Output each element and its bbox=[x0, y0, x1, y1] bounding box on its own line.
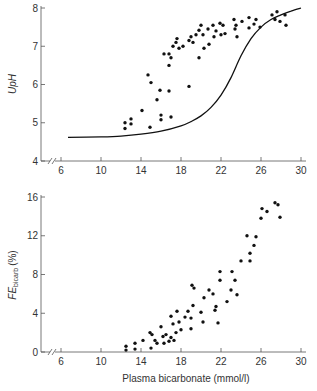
data-point bbox=[167, 52, 170, 55]
data-point bbox=[141, 339, 144, 342]
data-point bbox=[172, 339, 175, 342]
x-tick-label: 14 bbox=[135, 165, 147, 176]
data-point bbox=[278, 216, 281, 219]
data-point bbox=[283, 13, 286, 16]
data-point bbox=[177, 320, 180, 323]
data-point bbox=[155, 98, 158, 101]
data-point bbox=[254, 18, 257, 21]
data-point bbox=[191, 304, 194, 307]
data-point bbox=[225, 300, 228, 303]
data-point bbox=[194, 33, 197, 36]
data-point bbox=[229, 288, 232, 291]
data-point bbox=[150, 333, 153, 336]
data-point bbox=[167, 89, 170, 92]
data-point bbox=[248, 252, 251, 255]
data-point bbox=[276, 203, 279, 206]
data-point bbox=[162, 52, 165, 55]
theoretical-curve bbox=[68, 8, 301, 137]
data-point bbox=[153, 339, 156, 342]
x-tick-label: 22 bbox=[215, 356, 227, 367]
data-point bbox=[254, 235, 257, 238]
data-point bbox=[235, 293, 238, 296]
data-point bbox=[221, 24, 224, 27]
data-point bbox=[258, 25, 261, 28]
data-point bbox=[155, 342, 158, 345]
data-point bbox=[175, 310, 178, 313]
data-point bbox=[202, 47, 205, 50]
data-point bbox=[164, 333, 167, 336]
data-point bbox=[149, 346, 152, 349]
data-point bbox=[240, 20, 243, 23]
data-point bbox=[183, 315, 186, 318]
data-point bbox=[207, 43, 210, 46]
data-point bbox=[167, 64, 170, 67]
data-point bbox=[230, 270, 233, 273]
data-point bbox=[284, 24, 287, 27]
top-chart-panel: 456786101418222630 UpH bbox=[7, 3, 307, 177]
data-point bbox=[171, 322, 174, 325]
data-point bbox=[211, 292, 214, 295]
y-tick-label: 12 bbox=[27, 230, 39, 241]
data-point bbox=[273, 18, 276, 21]
data-point bbox=[211, 24, 214, 27]
data-point bbox=[270, 13, 273, 16]
x-tick-label: 30 bbox=[295, 165, 307, 176]
bottom-scatter-points bbox=[124, 201, 281, 352]
data-point bbox=[159, 113, 162, 116]
data-point bbox=[213, 309, 216, 312]
data-point bbox=[233, 279, 236, 282]
data-point bbox=[123, 127, 126, 130]
data-point bbox=[233, 27, 236, 30]
bottom-tick-labels: 04812166101418222630 bbox=[27, 192, 307, 368]
data-point bbox=[219, 33, 222, 36]
x-tick-label: 22 bbox=[215, 165, 227, 176]
x-tick-label: 6 bbox=[58, 165, 64, 176]
data-point bbox=[201, 320, 204, 323]
data-point bbox=[216, 321, 219, 324]
bottom-chart-panel: 04812166101418222630 FEbicarb(%) Plasma … bbox=[7, 192, 307, 385]
x-tick-label: 18 bbox=[175, 165, 187, 176]
ylabel-main: FE bbox=[7, 287, 18, 300]
data-point bbox=[148, 126, 151, 129]
ylabel-sub: bicarb bbox=[12, 268, 19, 287]
data-point bbox=[174, 41, 177, 44]
data-point bbox=[201, 33, 204, 36]
data-point bbox=[140, 109, 143, 112]
figure: 456786101418222630 UpH 04812166101418222… bbox=[0, 0, 317, 391]
data-point bbox=[124, 345, 127, 348]
data-point bbox=[189, 316, 192, 319]
data-point bbox=[177, 47, 180, 50]
data-point bbox=[259, 217, 262, 220]
data-point bbox=[199, 24, 202, 27]
data-point bbox=[158, 89, 161, 92]
data-point bbox=[162, 342, 165, 345]
data-point bbox=[175, 37, 178, 40]
y-tick-label: 0 bbox=[32, 347, 38, 358]
data-point bbox=[192, 286, 195, 289]
data-point bbox=[169, 115, 172, 118]
data-point bbox=[169, 336, 172, 339]
data-point bbox=[123, 121, 126, 124]
data-point bbox=[235, 35, 238, 38]
data-point bbox=[239, 259, 242, 262]
x-tick-label: 10 bbox=[95, 356, 107, 367]
data-point bbox=[179, 328, 182, 331]
y-tick-label: 4 bbox=[32, 308, 38, 319]
data-point bbox=[232, 18, 235, 21]
data-point bbox=[207, 288, 210, 291]
y-tick-label: 16 bbox=[27, 192, 39, 203]
data-point bbox=[212, 35, 215, 38]
data-point bbox=[202, 296, 205, 299]
data-point bbox=[260, 207, 263, 210]
y-tick-label: 8 bbox=[32, 269, 38, 280]
data-point bbox=[206, 27, 209, 30]
ylabel-suffix: (%) bbox=[7, 250, 18, 266]
data-point bbox=[278, 20, 281, 23]
data-point bbox=[273, 201, 276, 204]
top-tick-labels: 456786101418222630 bbox=[32, 3, 307, 177]
data-point bbox=[190, 284, 193, 287]
data-point bbox=[245, 234, 248, 237]
data-point bbox=[189, 327, 192, 330]
x-tick-label: 18 bbox=[175, 356, 187, 367]
x-tick-label: 30 bbox=[295, 356, 307, 367]
